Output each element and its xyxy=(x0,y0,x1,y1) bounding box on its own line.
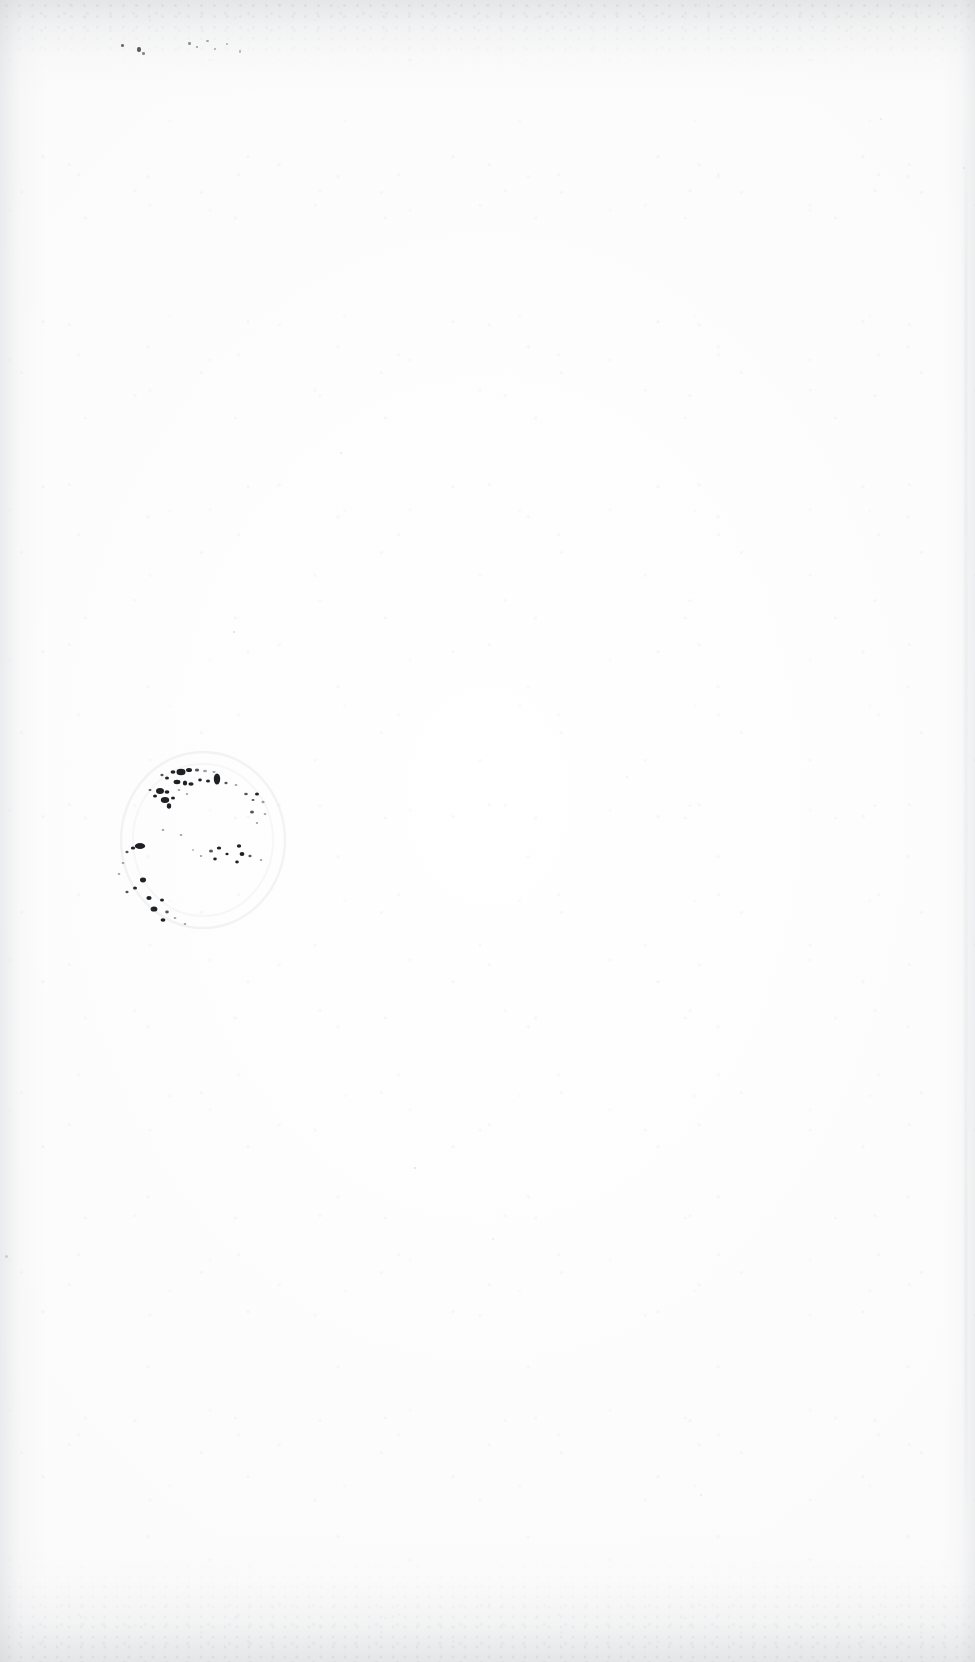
page-edge-speckle-bottom xyxy=(0,1552,975,1662)
stamp-arc-right xyxy=(244,793,266,824)
page-edge-shadow-left xyxy=(0,0,46,1662)
stamp-arc-left xyxy=(149,788,189,809)
stamp-arc-lower-left xyxy=(118,843,187,925)
stamp-inner-marks xyxy=(162,829,263,863)
circular-ink-stamp xyxy=(105,728,305,943)
page-edge-speckle-top xyxy=(0,0,975,70)
stamp-residual-halo xyxy=(121,752,285,928)
page-edge-shadow-right xyxy=(941,0,975,1662)
scanned-page xyxy=(0,0,975,1662)
page-edge-line-right xyxy=(965,120,967,1540)
